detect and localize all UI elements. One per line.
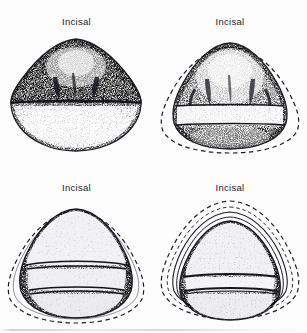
tooth-upper-surface	[0, 33, 153, 108]
figure-bottom-left: Incisal	[0, 166, 153, 333]
scan-artifact-line	[0, 329, 307, 331]
tooth-body	[153, 33, 307, 155]
figure-grid: Incisal	[0, 0, 307, 333]
figure-top-left-illustration	[0, 33, 153, 153]
figure-bottom-left-illustration	[0, 195, 153, 327]
figure-label: Incisal	[62, 183, 91, 193]
figure-top-right-illustration	[153, 33, 307, 155]
figure-top-left: Incisal	[0, 0, 153, 166]
figure-label: Incisal	[215, 17, 244, 27]
figure-bottom-right: Incisal	[153, 166, 307, 333]
figure-top-right: Incisal	[153, 0, 307, 166]
tooth-lower-surface	[0, 99, 153, 153]
figure-label: Incisal	[62, 17, 91, 27]
figure-bottom-right-illustration	[153, 191, 307, 327]
